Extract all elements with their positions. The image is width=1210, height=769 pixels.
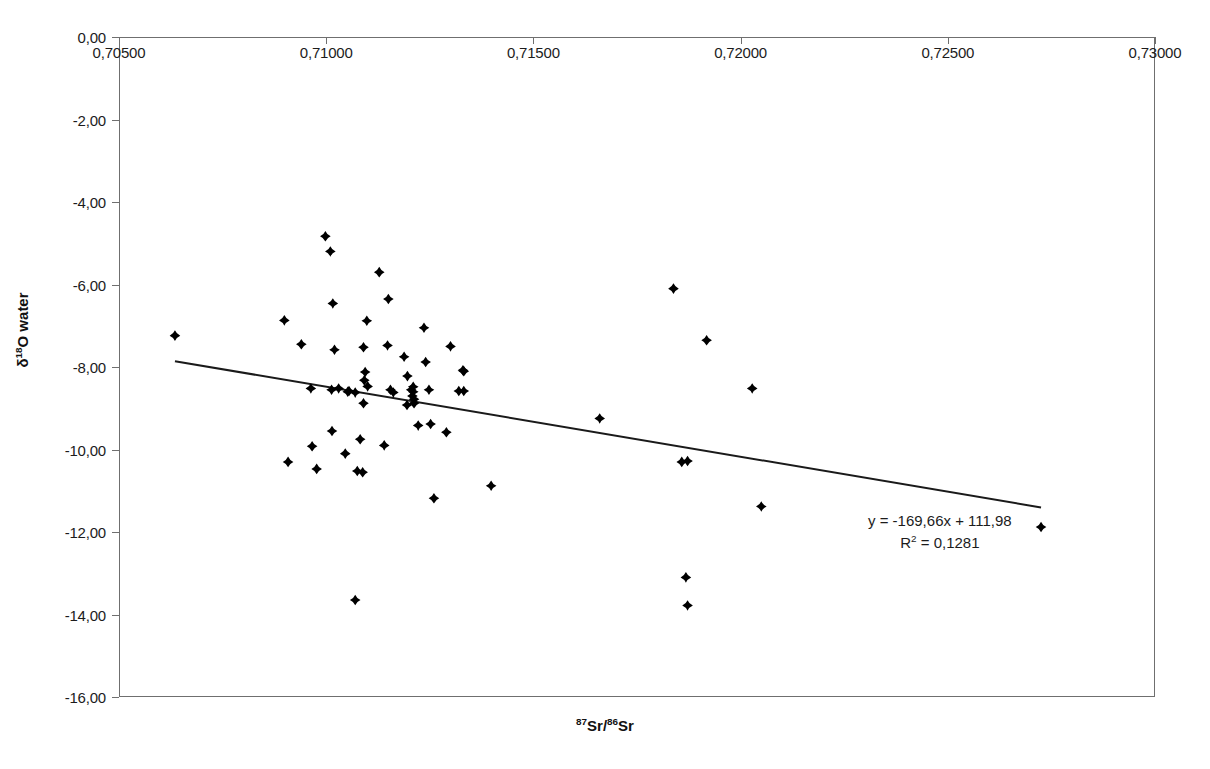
r-squared-value: R2 = 0,1281 [868, 532, 1012, 554]
y-tick-label-2: -4,00 [40, 194, 106, 211]
x-title-sup2: 86 [607, 716, 618, 727]
y-tick-3 [112, 285, 119, 286]
y-tick-7 [112, 615, 119, 616]
x-tick-0 [119, 37, 120, 44]
y-title-delta: δ [14, 358, 31, 367]
y-tick-8 [112, 697, 119, 698]
y-tick-5 [112, 450, 119, 451]
y-tick-label-5: -10,00 [40, 441, 106, 458]
y-tick-2 [112, 202, 119, 203]
y-tick-1 [112, 120, 119, 121]
y-tick-label-6: -12,00 [40, 524, 106, 541]
x-tick-label-2: 0,71500 [507, 44, 560, 61]
y-axis-title: δ18O water [14, 292, 31, 367]
x-tick-label-0: 0,70500 [93, 44, 146, 61]
y-tick-label-8: -16,00 [40, 689, 106, 706]
y-tick-label-3: -6,00 [40, 276, 106, 293]
y-tick-label-4: -8,00 [40, 359, 106, 376]
regression-equation: y = -169,66x + 111,98 [868, 512, 1012, 529]
x-axis-title: 87Sr/86Sr [576, 717, 634, 734]
x-tick-2 [533, 37, 534, 44]
y-tick-4 [112, 367, 119, 368]
x-tick-label-4: 0,72500 [921, 44, 974, 61]
y-title-tail: O water [14, 292, 31, 347]
y-tick-6 [112, 532, 119, 533]
x-tick-3 [741, 37, 742, 44]
x-tick-label-1: 0,71000 [300, 44, 353, 61]
x-tick-5 [1155, 37, 1156, 44]
x-title-mid: Sr/ [587, 717, 607, 734]
x-title-tail: Sr [618, 717, 634, 734]
x-tick-1 [326, 37, 327, 44]
x-tick-label-3: 0,72000 [714, 44, 767, 61]
x-title-sup1: 87 [576, 716, 587, 727]
y-tick-label-0: 0,00 [40, 29, 106, 46]
plot-area-frame [119, 37, 1155, 697]
x-tick-label-5: 0,73000 [1129, 44, 1182, 61]
y-tick-0 [112, 37, 119, 38]
x-tick-4 [948, 37, 949, 44]
y-tick-label-7: -14,00 [40, 606, 106, 623]
y-tick-label-1: -2,00 [40, 111, 106, 128]
chart-canvas: 0,705000,710000,715000,720000,725000,730… [0, 0, 1210, 769]
regression-annotation: y = -169,66x + 111,98 R2 = 0,1281 [868, 510, 1012, 554]
y-title-sup: 18 [13, 347, 24, 358]
